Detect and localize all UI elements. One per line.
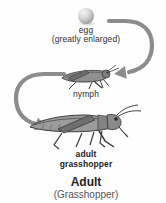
adult-label-line1: adult [8, 150, 164, 159]
grasshopper-life-cycle-diagram: egg (greatly enlarged) nymph [0, 0, 166, 203]
adult-grasshopper-icon [28, 103, 144, 153]
adult-label-line2: grasshopper [8, 160, 164, 169]
egg-icon [78, 8, 94, 24]
caption-title: Adult [8, 176, 164, 189]
caption-subtitle: (Grasshopper) [8, 189, 164, 200]
